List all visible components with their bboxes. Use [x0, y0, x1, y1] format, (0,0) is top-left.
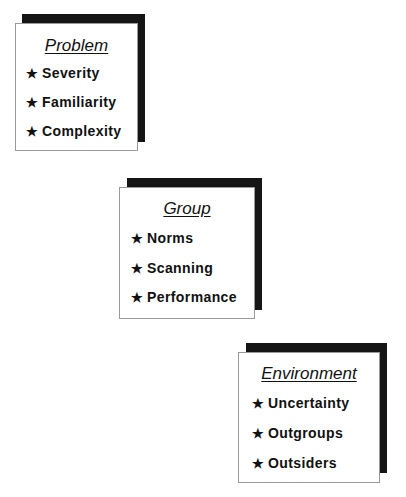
- environment-box: Environment ★Uncertainty ★Outgroups ★Out…: [238, 352, 380, 483]
- list-item: ★Familiarity: [26, 94, 116, 110]
- list-item: ★Outgroups: [252, 425, 343, 441]
- list-item: ★Performance: [131, 289, 237, 305]
- star-icon: ★: [26, 124, 42, 139]
- star-icon: ★: [26, 66, 42, 81]
- list-item: ★Scanning: [131, 260, 213, 276]
- star-icon: ★: [131, 261, 147, 276]
- list-item: ★Norms: [131, 230, 193, 246]
- star-icon: ★: [252, 456, 268, 471]
- problem-box: Problem ★Severity ★Familiarity ★Complexi…: [15, 23, 138, 151]
- group-box: Group ★Norms ★Scanning ★Performance: [119, 187, 255, 319]
- star-icon: ★: [131, 231, 147, 246]
- star-icon: ★: [131, 290, 147, 305]
- star-icon: ★: [252, 426, 268, 441]
- star-icon: ★: [26, 95, 42, 110]
- list-item: ★Outsiders: [252, 455, 337, 471]
- environment-title: Environment: [239, 364, 379, 384]
- group-title: Group: [120, 199, 254, 219]
- list-item: ★Uncertainty: [252, 395, 349, 411]
- list-item: ★Complexity: [26, 123, 121, 139]
- problem-title: Problem: [16, 36, 137, 56]
- list-item: ★Severity: [26, 65, 100, 81]
- star-icon: ★: [252, 396, 268, 411]
